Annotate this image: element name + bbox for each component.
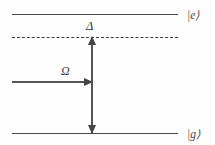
coupling-arrow-shaft	[12, 81, 92, 82]
detuning-arrow-head-down	[88, 125, 96, 134]
coupling-label-omega: Ω	[61, 64, 70, 79]
energy-level-diagram: |e⟩ |g⟩ Δ Ω	[0, 0, 215, 145]
ket-label-excited: |e⟩	[187, 8, 199, 22]
energy-level-excited	[12, 14, 178, 15]
detuning-label-delta: Δ	[86, 19, 93, 34]
ket-label-ground: |g⟩	[187, 127, 200, 141]
coupling-arrow-head-right	[84, 78, 93, 86]
detuning-arrow-head-up	[88, 36, 96, 45]
